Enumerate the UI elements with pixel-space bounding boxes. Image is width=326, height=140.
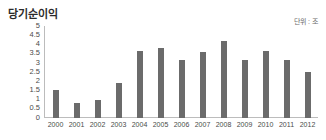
- x-axis-tick-label: 2007: [192, 121, 213, 128]
- y-axis-tick-label: 3: [36, 59, 40, 67]
- y-axis-tick-label: 1.5: [30, 86, 40, 94]
- x-axis-tick-label: 2009: [234, 121, 255, 128]
- y-axis-tick-label: 0: [36, 114, 40, 122]
- bar[interactable]: [284, 60, 290, 118]
- bar[interactable]: [74, 103, 80, 118]
- bar-slot: [297, 26, 318, 118]
- bar[interactable]: [95, 100, 101, 117]
- bar[interactable]: [200, 52, 206, 118]
- bar-slot: [234, 26, 255, 118]
- bar-slot: [129, 26, 150, 118]
- bar[interactable]: [158, 48, 164, 118]
- bar[interactable]: [221, 41, 227, 118]
- bar-slot: [66, 26, 87, 118]
- bar-slot: [213, 26, 234, 118]
- bar[interactable]: [137, 51, 143, 118]
- chart-unit-label: 단위 : 조: [294, 16, 318, 26]
- chart-card: 당기순이익 단위 : 조 54.543.532.521.510.50 20002…: [0, 0, 326, 140]
- x-axis-tick-label: 2004: [129, 121, 150, 128]
- y-axis-tick-label: 2: [36, 77, 40, 85]
- y-axis-tick-label: 3.5: [30, 49, 40, 57]
- y-axis-tick-label: 5: [36, 22, 40, 30]
- bar-slot: [45, 26, 66, 118]
- bar[interactable]: [179, 60, 185, 118]
- chart-title: 당기순이익: [8, 5, 58, 21]
- bar[interactable]: [53, 90, 59, 117]
- x-axis: 2000200120022003200420052006200720082009…: [45, 119, 318, 133]
- x-axis-tick-label: 2002: [87, 121, 108, 128]
- x-axis-tick-label: 2003: [108, 121, 129, 128]
- bar-slot: [150, 26, 171, 118]
- x-axis-tick-label: 2012: [297, 121, 318, 128]
- bar[interactable]: [116, 83, 122, 118]
- bar[interactable]: [242, 60, 248, 118]
- x-axis-tick-label: 2005: [150, 121, 171, 128]
- bar-slot: [171, 26, 192, 118]
- y-axis-tick-label: 2.5: [30, 68, 40, 76]
- x-axis-tick-label: 2010: [255, 121, 276, 128]
- y-axis-tick-label: 0.5: [30, 104, 40, 112]
- x-axis-tick-label: 2008: [213, 121, 234, 128]
- bar[interactable]: [263, 51, 269, 118]
- bar-series: [45, 26, 318, 118]
- x-axis-tick-label: 2006: [171, 121, 192, 128]
- y-axis-tick-label: 4: [36, 40, 40, 48]
- bar-slot: [276, 26, 297, 118]
- x-axis-tick-label: 2001: [66, 121, 87, 128]
- bar-slot: [87, 26, 108, 118]
- bar-slot: [108, 26, 129, 118]
- bar-slot: [255, 26, 276, 118]
- bar[interactable]: [305, 72, 311, 118]
- x-axis-tick-label: 2011: [276, 121, 297, 128]
- y-axis: 54.543.532.521.510.50: [0, 26, 42, 118]
- bar-slot: [192, 26, 213, 118]
- y-axis-tick-label: 1: [36, 95, 40, 103]
- y-axis-tick-label: 4.5: [30, 31, 40, 39]
- x-axis-tick-label: 2000: [45, 121, 66, 128]
